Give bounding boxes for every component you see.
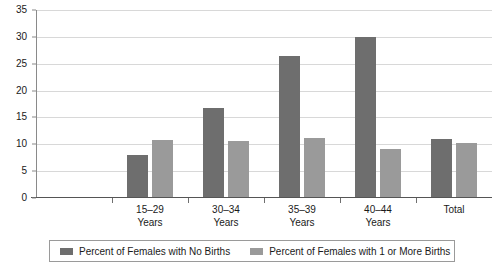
y-axis-tick-mark [32, 117, 36, 118]
x-axis-tick-mark [416, 198, 417, 203]
y-axis-tick-mark [32, 36, 36, 37]
x-axis-ticks: 15–29Years30–34Years35–39Years40–44Years… [36, 198, 492, 232]
y-axis-tick-mark [32, 90, 36, 91]
y-axis-tick-label: 30 [1, 32, 27, 42]
bar [304, 138, 325, 198]
x-axis-category-label: Total [409, 204, 499, 217]
bar [380, 149, 401, 198]
y-axis-tick-mark [32, 63, 36, 64]
legend-swatch-icon-1 [250, 248, 263, 255]
bar [228, 141, 249, 198]
plot-area [36, 10, 492, 198]
y-axis-tick-label: 35 [1, 5, 27, 15]
x-axis-tick-mark [340, 198, 341, 203]
x-axis-tick-mark [188, 198, 189, 203]
x-axis-tick-mark [112, 198, 113, 203]
x-axis-category-label-line1: Total [409, 204, 499, 217]
bar [456, 143, 477, 198]
bar [127, 155, 148, 198]
bar [152, 140, 173, 198]
y-axis-tick-mark [32, 144, 36, 145]
legend-entry-no-births: Percent of Females with No Births [60, 241, 230, 261]
x-axis-category-label-line2: Years [333, 217, 423, 230]
y-axis-tick-label: 15 [1, 112, 27, 122]
y-axis-tick-mark [32, 10, 36, 11]
bars-layer [36, 10, 492, 198]
y-axis-tick-label: 5 [1, 166, 27, 176]
x-axis-tick-mark [264, 198, 265, 203]
bar [279, 56, 300, 198]
legend-entry-one-or-more-births: Percent of Females with 1 or More Births [250, 241, 450, 261]
y-axis-tick-label: 10 [1, 139, 27, 149]
legend-swatch-icon-0 [60, 248, 73, 255]
bar [431, 139, 452, 198]
bar [203, 108, 224, 198]
y-axis-tick-label: 0 [1, 193, 27, 203]
bar-chart: 05101520253035 15–29Years30–34Years35–39… [0, 0, 501, 266]
y-axis-tick-label: 20 [1, 86, 27, 96]
legend-label-1: Percent of Females with 1 or More Births [269, 246, 450, 257]
bar [355, 37, 376, 198]
legend-label-0: Percent of Females with No Births [79, 246, 230, 257]
legend: Percent of Females with No Births Percen… [49, 240, 455, 262]
y-axis-tick-label: 25 [1, 59, 27, 69]
y-axis-tick-mark [32, 171, 36, 172]
